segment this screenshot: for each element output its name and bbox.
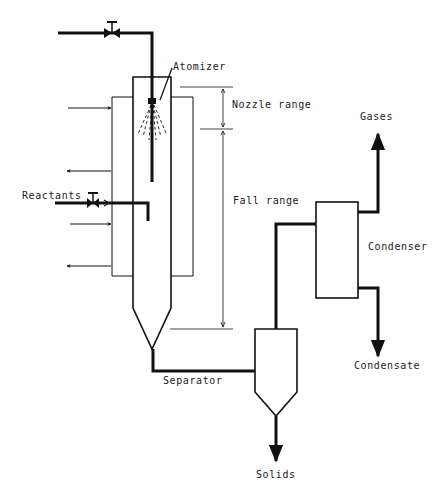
reactor-outlet-line <box>153 349 255 371</box>
fall-range-dimension <box>170 131 233 329</box>
reactants-label: Reactants <box>22 190 82 201</box>
nozzle-range-dimension <box>180 87 233 129</box>
reactants-valve-icon[interactable] <box>87 193 109 208</box>
gases-label: Gases <box>360 111 393 122</box>
condensate-outlet-arrow <box>358 288 378 356</box>
condenser-label: Condenser <box>368 241 428 252</box>
condenser-vessel <box>316 202 358 298</box>
atomizer-label: Atomizer <box>173 61 226 72</box>
feed-valve-icon[interactable] <box>104 22 120 38</box>
fall-range-label: Fall range <box>233 195 299 206</box>
solids-label: Solids <box>256 469 296 480</box>
nozzle-range-label: Nozzle range <box>232 99 311 110</box>
separator-label: Separator <box>163 375 223 386</box>
spray-reactor-diagram: Atomizer Reactants Nozzle range Fall ran… <box>0 0 447 498</box>
separator-vessel <box>255 329 297 416</box>
separator-gas-line <box>276 224 316 329</box>
jacket-flow-arrows <box>67 108 111 266</box>
atomizer-nozzle-icon <box>138 68 172 140</box>
condensate-label: Condensate <box>354 360 420 371</box>
gases-outlet-arrow <box>358 134 378 212</box>
reactants-line <box>55 203 148 221</box>
